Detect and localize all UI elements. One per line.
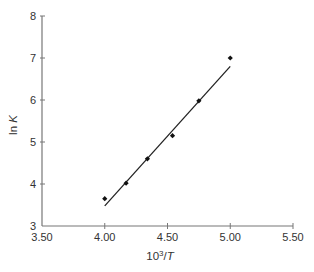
axes xyxy=(42,16,293,226)
regression-line xyxy=(105,66,231,205)
y-tick-label: 6 xyxy=(30,94,36,106)
y-tick-label: 7 xyxy=(30,52,36,64)
y-axis-label: ln K xyxy=(7,114,19,135)
data-point-marker xyxy=(228,55,233,60)
x-axis-label: 103/T xyxy=(146,249,174,262)
y-axis-ticks: 345678 xyxy=(30,10,45,232)
chart: 345678 3.504.004.505.005.50 103/T ln K xyxy=(0,0,314,272)
data-point-marker xyxy=(102,196,107,201)
data-points xyxy=(102,55,233,201)
x-tick-label: 4.00 xyxy=(94,231,115,243)
fit-line xyxy=(105,66,231,205)
x-tick-label: 3.50 xyxy=(31,231,52,243)
y-tick-label: 4 xyxy=(30,178,36,190)
y-tick-label: 5 xyxy=(30,136,36,148)
data-point-marker xyxy=(170,133,175,138)
x-tick-label: 4.50 xyxy=(157,231,178,243)
x-tick-label: 5.50 xyxy=(282,231,303,243)
x-tick-label: 5.00 xyxy=(220,231,241,243)
y-tick-label: 8 xyxy=(30,10,36,22)
